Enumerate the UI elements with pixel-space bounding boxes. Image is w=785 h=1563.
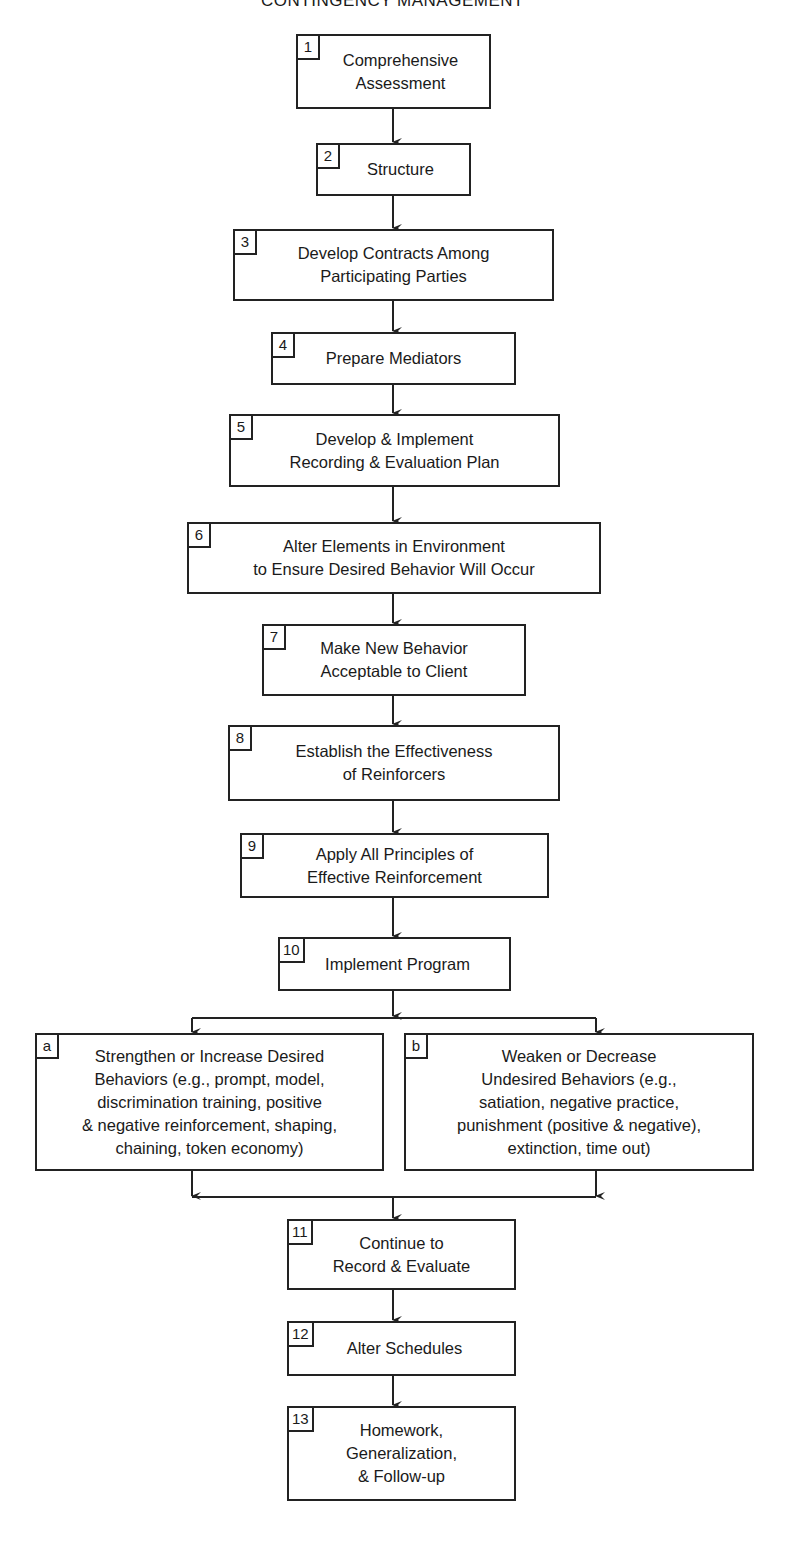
step-6-box: 6 Alter Elements in Environment to Ensur… [187,522,601,594]
step-number: 4 [273,334,295,358]
step-number: 6 [189,524,211,548]
step-label: Structure [343,158,444,181]
step-label: Develop & Implement Recording & Evaluati… [279,428,509,474]
step-label: Develop Contracts Among Participating Pa… [288,242,500,288]
step-5-box: 5 Develop & Implement Recording & Evalua… [229,414,560,487]
step-label: Continue to Record & Evaluate [323,1232,481,1278]
step-number: 10 [280,939,305,963]
step-label: Establish the Effectiveness of Reinforce… [286,740,503,786]
step-9-box: 9 Apply All Principles of Effective Rein… [240,833,549,898]
step-number: 8 [230,727,252,751]
step-12-box: 12 Alter Schedules [287,1321,516,1376]
step-label: Homework, Generalization, & Follow-up [336,1419,467,1488]
step-number: 7 [264,626,286,650]
step-7-box: 7 Make New Behavior Acceptable to Client [262,624,526,696]
branch-letter: b [406,1035,428,1059]
step-1-box: 1 Comprehensive Assessment [296,34,491,109]
step-label: Alter Elements in Environment to Ensure … [243,535,545,581]
step-label: Apply All Principles of Effective Reinfo… [297,843,492,889]
branch-letter: a [37,1035,59,1059]
branch-label: Weaken or Decrease Undesired Behaviors (… [447,1045,711,1160]
step-10-box: 10 Implement Program [278,937,511,991]
branch-a-box: a Strengthen or Increase Desired Behavio… [35,1033,384,1171]
step-number: 1 [298,36,320,60]
step-number: 13 [289,1408,314,1432]
step-number: 9 [242,835,264,859]
step-number: 2 [318,145,340,169]
step-11-box: 11 Continue to Record & Evaluate [287,1219,516,1290]
step-4-box: 4 Prepare Mediators [271,332,516,385]
step-number: 12 [289,1323,314,1347]
step-8-box: 8 Establish the Effectiveness of Reinfor… [228,725,560,801]
branch-b-box: b Weaken or Decrease Undesired Behaviors… [404,1033,754,1171]
step-label: Make New Behavior Acceptable to Client [310,637,478,683]
step-13-box: 13 Homework, Generalization, & Follow-up [287,1406,516,1501]
step-2-box: 2 Structure [316,143,471,196]
step-number: 5 [231,416,253,440]
step-label: Comprehensive Assessment [319,49,469,95]
step-number: 3 [235,231,257,255]
step-3-box: 3 Develop Contracts Among Participating … [233,229,554,301]
step-label: Prepare Mediators [316,347,472,370]
step-label: Implement Program [309,953,480,976]
branch-label: Strengthen or Increase Desired Behaviors… [72,1045,347,1160]
step-label: Alter Schedules [331,1337,473,1360]
step-number: 11 [289,1221,313,1245]
